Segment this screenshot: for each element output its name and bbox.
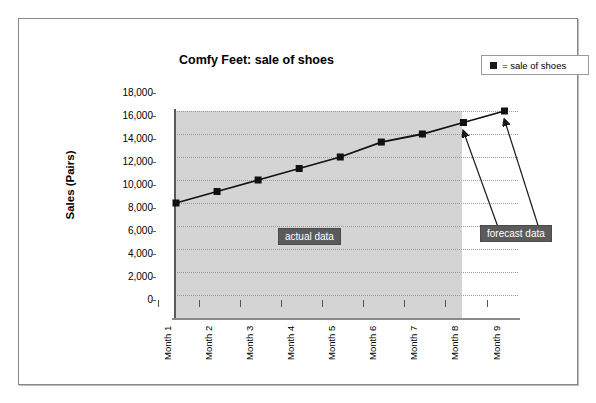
legend-square-marker-icon bbox=[490, 62, 497, 69]
gridline bbox=[174, 157, 518, 158]
chart-frame: Comfy Feet: sale of shoes = sale of shoe… bbox=[18, 18, 578, 385]
x-axis-tick-mark bbox=[240, 300, 241, 307]
x-axis-tick-label: Month 9 bbox=[491, 298, 502, 360]
y-axis-line bbox=[174, 109, 176, 320]
x-axis-tick-label: Month 6 bbox=[367, 298, 378, 360]
y-axis-tick-label: 16,000 bbox=[97, 110, 153, 121]
x-axis-tick-mark bbox=[322, 300, 323, 307]
plot-area bbox=[174, 111, 518, 318]
gridline bbox=[174, 226, 518, 227]
x-axis-tick-mark bbox=[363, 300, 364, 307]
y-axis-tick-mark bbox=[151, 300, 156, 301]
gridline bbox=[174, 295, 518, 296]
y-axis-tick-label: 12,000 bbox=[97, 156, 153, 167]
gridline bbox=[174, 111, 518, 112]
gridline bbox=[174, 203, 518, 204]
gridline bbox=[174, 272, 518, 273]
y-axis-tick-mark bbox=[151, 185, 156, 186]
x-axis-tick-mark bbox=[281, 300, 282, 307]
y-axis-tick-label: 14,000 bbox=[97, 133, 153, 144]
x-axis-tick-label: Month 7 bbox=[408, 298, 419, 360]
y-axis-tick-label: 2,000 bbox=[97, 271, 153, 282]
y-axis-tick-label: 18,000 bbox=[97, 87, 153, 98]
x-axis-tick-mark bbox=[404, 300, 405, 307]
y-axis-tick-mark bbox=[151, 93, 156, 94]
y-axis-tick-mark bbox=[151, 231, 156, 232]
gridline bbox=[174, 180, 518, 181]
gridline bbox=[174, 134, 518, 135]
x-axis-tick-label: Month 3 bbox=[244, 298, 255, 360]
y-axis-tick-mark bbox=[151, 139, 156, 140]
y-axis-tick-label: 6,000 bbox=[97, 225, 153, 236]
annotation-forecast-data: forecast data bbox=[480, 225, 552, 242]
y-axis-tick-mark bbox=[151, 208, 156, 209]
y-axis-tick-mark bbox=[151, 162, 156, 163]
actual-data-shaded-region bbox=[174, 111, 462, 318]
gridline bbox=[174, 249, 518, 250]
x-axis-tick-label: Month 1 bbox=[162, 298, 173, 360]
x-axis-tick-mark bbox=[158, 300, 159, 307]
x-axis-tick-label: Month 2 bbox=[203, 298, 214, 360]
x-axis-tick-mark bbox=[487, 300, 488, 307]
y-axis-tick-mark bbox=[151, 116, 156, 117]
x-axis-line bbox=[172, 318, 520, 320]
y-axis-tick-label: 10,000 bbox=[97, 179, 153, 190]
y-axis-tick-label: 4,000 bbox=[97, 248, 153, 259]
x-axis-tick-mark bbox=[445, 300, 446, 307]
x-axis-tick-label: Month 5 bbox=[326, 298, 337, 360]
y-axis-tick-label: 8,000 bbox=[97, 202, 153, 213]
annotation-actual-data: actual data bbox=[278, 228, 341, 245]
x-axis-tick-mark bbox=[199, 300, 200, 307]
y-axis-tick-mark bbox=[151, 277, 156, 278]
chart-title: Comfy Feet: sale of shoes bbox=[179, 53, 334, 67]
x-axis-tick-label: Month 8 bbox=[449, 298, 460, 360]
legend-label: = sale of shoes bbox=[502, 60, 566, 71]
y-axis-tick-label: 0 bbox=[97, 294, 153, 305]
x-axis-tick-label: Month 4 bbox=[285, 298, 296, 360]
y-axis-tick-mark bbox=[151, 254, 156, 255]
chart-legend: = sale of shoes bbox=[481, 55, 589, 75]
y-axis-title: Sales (Pairs) bbox=[64, 125, 76, 245]
